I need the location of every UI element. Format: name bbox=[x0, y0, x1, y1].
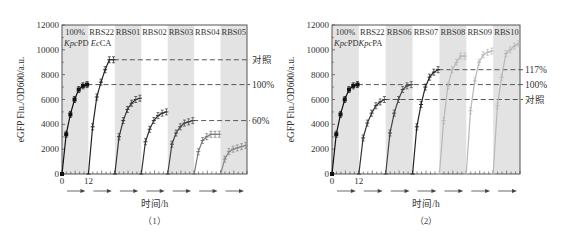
x-tick-label: 12 bbox=[354, 176, 363, 186]
construct-label-part: PD bbox=[78, 38, 91, 48]
chart-canvas: 020004000600080001000012000012时间/h（1）eGF… bbox=[0, 0, 561, 236]
series-line bbox=[194, 134, 219, 174]
data-marker-square bbox=[334, 132, 338, 136]
segment-label: RBS22 bbox=[360, 27, 385, 37]
series-line bbox=[88, 60, 113, 174]
arrow-head-icon bbox=[80, 189, 85, 193]
y-tick-label: 8000 bbox=[311, 70, 330, 80]
construct-label-part: PA bbox=[372, 38, 383, 48]
reference-line-label: 对照 bbox=[252, 54, 272, 65]
data-marker-square bbox=[60, 172, 64, 176]
y-tick-label: 4000 bbox=[41, 119, 60, 129]
arrow-head-icon bbox=[160, 189, 165, 193]
arrow-head-icon bbox=[458, 189, 463, 193]
arrow-head-icon bbox=[186, 189, 191, 193]
y-tick-label: 8000 bbox=[41, 70, 60, 80]
construct-label-part: PD bbox=[348, 38, 359, 48]
arrow-head-icon bbox=[213, 189, 218, 193]
y-tick-label: 12000 bbox=[307, 20, 330, 30]
arrow-head-icon bbox=[107, 189, 112, 193]
reference-line-label: 对照 bbox=[525, 94, 545, 105]
construct-label-part: Kpc bbox=[63, 38, 78, 48]
construct-label-part: Kpc bbox=[358, 38, 373, 48]
chart-panel-1: 020004000600080001000012000012时间/h（1）eGF… bbox=[16, 20, 274, 226]
panel-label: （2） bbox=[415, 216, 438, 226]
y-tick-label: 10000 bbox=[37, 45, 60, 55]
y-tick-label: 2000 bbox=[41, 144, 60, 154]
data-marker-square bbox=[356, 83, 360, 87]
data-marker-square bbox=[73, 98, 77, 102]
segment-label: RBS08 bbox=[441, 27, 466, 37]
shaded-band bbox=[168, 25, 194, 174]
x-tick-label: 0 bbox=[60, 176, 65, 186]
shaded-band bbox=[221, 25, 247, 174]
reference-line-label: 117% bbox=[525, 65, 547, 75]
y-tick-label: 10000 bbox=[307, 45, 330, 55]
data-marker-square bbox=[347, 88, 351, 92]
arrow-head-icon bbox=[485, 189, 490, 193]
segment-label: 100% bbox=[336, 27, 356, 37]
x-axis-title: 时间/h bbox=[412, 198, 440, 209]
reference-line-label: 100% bbox=[252, 80, 274, 90]
segment-label: RBS10 bbox=[494, 27, 519, 37]
arrow-head-icon bbox=[239, 189, 244, 193]
panel-label: （1） bbox=[143, 216, 166, 226]
y-tick-label: 2000 bbox=[311, 144, 330, 154]
y-tick-label: 6000 bbox=[41, 95, 60, 105]
arrow-head-icon bbox=[405, 189, 410, 193]
arrow-head-icon bbox=[378, 189, 383, 193]
figure: 020004000600080001000012000012时间/h（1）eGF… bbox=[0, 0, 561, 236]
data-marker-square bbox=[339, 112, 343, 116]
segment-label: RBS02 bbox=[142, 27, 167, 37]
data-marker-square bbox=[77, 88, 81, 92]
arrow-head-icon bbox=[351, 189, 356, 193]
construct-label-part: Ec bbox=[90, 38, 100, 48]
segment-label: RBS06 bbox=[387, 27, 412, 37]
data-marker-square bbox=[343, 98, 347, 102]
data-marker-square bbox=[68, 112, 72, 116]
y-tick-label: 4000 bbox=[311, 119, 330, 129]
arrow-head-icon bbox=[133, 189, 138, 193]
reference-line-label: 60% bbox=[252, 116, 270, 126]
chart-panel-2: 020004000600080001000012000012时间/h（2）eGF… bbox=[286, 20, 547, 226]
segment-label: RBS09 bbox=[467, 27, 492, 37]
reference-line-label: 100% bbox=[525, 80, 547, 90]
segment-label: RBS22 bbox=[89, 27, 114, 37]
y-tick-label: 0 bbox=[325, 169, 330, 179]
y-tick-label: 12000 bbox=[37, 20, 60, 30]
y-axis-title: eGFP Flu./OD600/a.u. bbox=[16, 57, 26, 143]
segment-label: RBS04 bbox=[195, 27, 220, 37]
segment-label: RBS03 bbox=[169, 27, 194, 37]
segment-label: RBS01 bbox=[116, 27, 141, 37]
segment-label: 100% bbox=[65, 27, 85, 37]
construct-label-part: Kpc bbox=[333, 38, 348, 48]
construct-label: KpcPDKpcPA bbox=[333, 38, 383, 48]
data-marker-square bbox=[64, 132, 68, 136]
x-tick-label: 12 bbox=[84, 176, 93, 186]
construct-label-part: CA bbox=[100, 38, 113, 48]
construct-label: KpcPD EcCA bbox=[63, 38, 112, 48]
segment-label: RBS05 bbox=[221, 27, 246, 37]
data-marker-square bbox=[81, 84, 85, 88]
x-tick-label: 0 bbox=[330, 176, 335, 186]
y-axis-title: eGFP Flu./OD600/a.u. bbox=[286, 57, 296, 143]
x-axis-title: 时间/h bbox=[141, 198, 169, 209]
arrow-head-icon bbox=[431, 189, 436, 193]
arrow-head-icon bbox=[512, 189, 517, 193]
segment-label: RBS07 bbox=[414, 27, 439, 37]
data-marker-square bbox=[330, 172, 334, 176]
y-tick-label: 6000 bbox=[311, 95, 330, 105]
y-tick-label: 0 bbox=[55, 169, 60, 179]
data-marker-square bbox=[351, 84, 355, 88]
data-marker-square bbox=[85, 83, 89, 87]
